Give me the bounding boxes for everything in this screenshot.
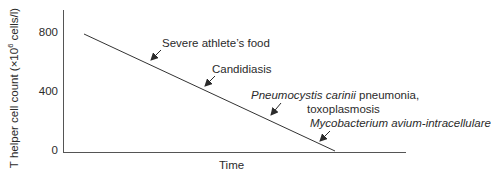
y-tick-800: 800 bbox=[28, 26, 58, 39]
arrow-icon bbox=[205, 76, 215, 86]
annotation-pneumocystis: Pneumocystis carinii pneumonia, bbox=[251, 89, 419, 102]
x-axis-label: Time bbox=[219, 159, 244, 171]
annotation-athletes-foot: Severe athlete’s food bbox=[162, 37, 270, 50]
annotation-toxoplasmosis: toxoplasmosis bbox=[307, 103, 380, 116]
arrow-icon bbox=[320, 131, 330, 141]
annotation-candidiasis: Candidiasis bbox=[212, 63, 271, 76]
annotation-mycobacterium: Mycobacterium avium-intracellulare bbox=[310, 117, 491, 130]
arrow-icon bbox=[151, 50, 161, 60]
y-tick-400: 400 bbox=[28, 85, 58, 98]
y-tick-0: 0 bbox=[28, 144, 58, 157]
arrow-icon bbox=[271, 103, 281, 115]
y-axis-label: T helper cell count (×106 cells/l) bbox=[6, 8, 20, 168]
